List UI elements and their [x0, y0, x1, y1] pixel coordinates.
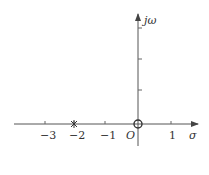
tick-label-1: 1 — [169, 129, 176, 142]
y-ticks — [138, 28, 142, 90]
jw-label: jω — [141, 14, 156, 27]
tick-label-neg2: −2 — [69, 129, 85, 142]
sigma-label: σ — [189, 129, 197, 142]
tick-label-neg3: −3 — [40, 129, 56, 142]
origin-label: O — [126, 129, 135, 142]
tick-label-neg1: −1 — [100, 129, 116, 142]
pole-zero-plot: −3 −2 −1 1 O σ jω — [0, 0, 209, 175]
